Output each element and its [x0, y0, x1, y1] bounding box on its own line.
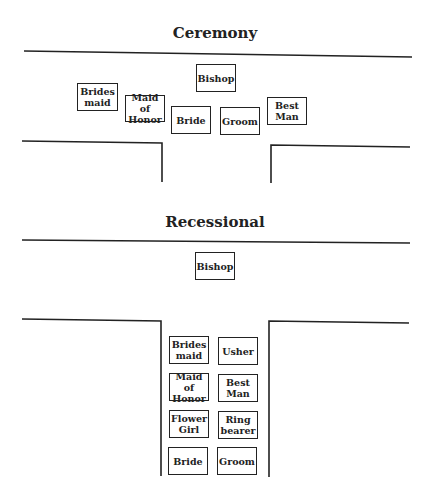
- ceremony-participant-box: Best Man: [267, 97, 307, 125]
- recessional-participant-box: Brides maid: [169, 336, 209, 364]
- ceremony-participant-box: Bishop: [196, 64, 236, 92]
- recessional-participant-box: Best Man: [218, 374, 258, 402]
- ceremony-participant-box: Groom: [220, 107, 260, 135]
- recessional-participant-box: Usher: [218, 337, 258, 365]
- ceremony-participant-box: Bride: [171, 106, 211, 134]
- ceremony-participant-box: Maid of Honor: [125, 95, 165, 122]
- recessional-participant-box: Bishop: [195, 252, 235, 280]
- ceremony-participant-box: Brides maid: [77, 83, 118, 111]
- recessional-participant-box: Bride: [168, 447, 208, 475]
- recessional-title: Recessional: [135, 213, 295, 231]
- recessional-participant-box: Ring bearer: [218, 411, 258, 439]
- recessional-participant-box: Flower Girl: [169, 410, 209, 438]
- recessional-participant-box: Groom: [217, 447, 257, 475]
- recessional-participant-box: Maid of Honor: [169, 373, 209, 401]
